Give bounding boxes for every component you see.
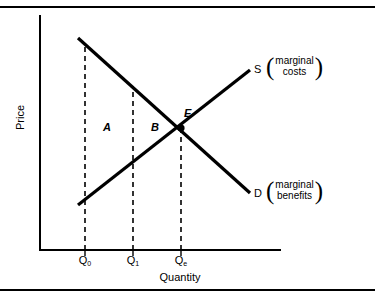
supply-curve (78, 70, 250, 205)
demand-annotation: ( marginal benefits ) (266, 180, 323, 201)
demand-annotation-text: marginal benefits (274, 180, 314, 201)
x-tick-label-q0: Q0 (70, 255, 100, 266)
supply-demand-figure: Price Quantity Q0 Q1 Qe A B E S D ( marg… (0, 0, 375, 303)
equilibrium-point-marker (177, 124, 184, 131)
tick-sub-qe: e (183, 260, 187, 267)
axes-group (39, 15, 281, 251)
tick-sub-q1: 1 (135, 260, 139, 267)
x-tick-label-qe: Qe (166, 255, 196, 266)
demand-annotation-line2: benefits (277, 191, 312, 202)
right-paren-demand: ) (315, 180, 323, 201)
supply-annotation-line2: costs (283, 67, 306, 78)
droplines-group (85, 44, 181, 250)
supply-annotation: ( marginal costs ) (266, 56, 323, 77)
y-axis-label: Price (15, 88, 26, 148)
right-paren-supply: ) (315, 56, 323, 77)
x-tick-label-q1: Q1 (118, 255, 148, 266)
tick-sub-q0: 0 (87, 260, 91, 267)
supply-curve-label: S (254, 64, 261, 75)
demand-curve (78, 38, 250, 193)
region-label-a: A (103, 122, 111, 133)
left-paren-demand: ( (266, 180, 274, 201)
demand-curve-label: D (254, 188, 262, 199)
region-label-b: B (151, 122, 159, 133)
x-axis-label: Quantity (125, 272, 235, 283)
supply-annotation-text: marginal costs (274, 56, 314, 77)
equilibrium-label: E (184, 108, 191, 119)
left-paren-supply: ( (266, 56, 274, 77)
